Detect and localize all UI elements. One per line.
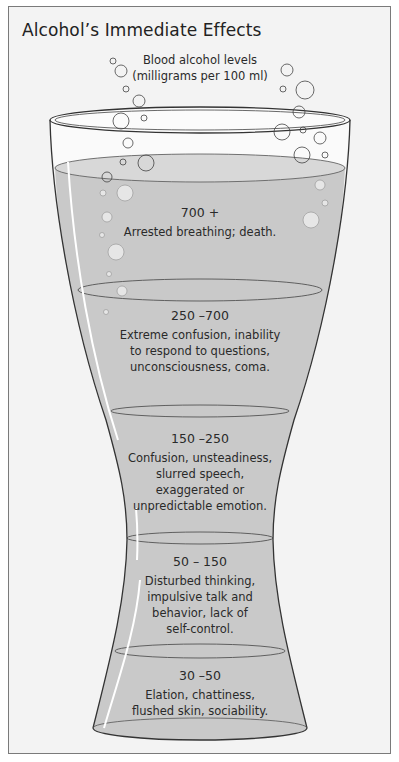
level-description: Elation, chattiness, flushed skin, socia… [90, 687, 310, 719]
level-description: Confusion, unsteadiness, slurred speech,… [90, 450, 310, 514]
level-description: Arrested breathing; death. [90, 224, 310, 240]
level-range: 150 –250 [90, 431, 310, 447]
level-50-150: 50 – 150 Disturbed thinking, impulsive t… [90, 554, 310, 637]
level-700-plus: 700 + Arrested breathing; death. [90, 205, 310, 240]
level-range: 250 –700 [90, 308, 310, 324]
level-250-700: 250 –700 Extreme confusion, inability to… [90, 308, 310, 375]
level-description: Extreme confusion, inability to respond … [90, 327, 310, 375]
level-description: Disturbed thinking, impulsive talk and b… [90, 573, 310, 637]
level-150-250: 150 –250 Confusion, unsteadiness, slurre… [90, 431, 310, 514]
liquid-surface [55, 154, 345, 182]
subtitle: Blood alcohol levels (milligrams per 100… [90, 52, 310, 84]
level-range: 50 – 150 [90, 554, 310, 570]
level-30-50: 30 –50 Elation, chattiness, flushed skin… [90, 668, 310, 719]
level-range: 700 + [90, 205, 310, 221]
glass-illustration [0, 0, 399, 762]
level-range: 30 –50 [90, 668, 310, 684]
